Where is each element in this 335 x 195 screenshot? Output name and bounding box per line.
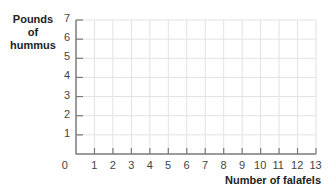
y-tick-label: 2 (64, 108, 70, 120)
x-tick-label: 5 (165, 159, 171, 171)
x-tick-label: 9 (239, 159, 245, 171)
x-tick-label: 6 (184, 159, 190, 171)
x-tick-label: 1 (91, 159, 97, 171)
x-tick-label: 3 (128, 159, 134, 171)
x-tick-label: 2 (110, 159, 116, 171)
x-tick-label: 11 (273, 159, 284, 171)
y-tick-label: 6 (64, 31, 70, 43)
y-axis-title: Pounds of hummus (2, 13, 64, 52)
x-tick-label: 0 (62, 159, 68, 171)
x-tick-label: 8 (220, 159, 226, 171)
y-tick-label: 1 (64, 127, 70, 139)
x-axis-title: Number of falafels (225, 174, 321, 186)
x-tick-label: 12 (291, 159, 303, 171)
y-axis-title-line-1: Pounds (2, 13, 64, 26)
y-axis-title-line-3: hummus (2, 39, 64, 52)
y-tick-label: 3 (64, 89, 70, 101)
x-tick-label: 4 (147, 159, 153, 171)
y-axis-title-line-2: of (2, 26, 64, 39)
x-tick-label: 7 (202, 159, 208, 171)
x-tick-label: 13 (310, 159, 322, 171)
y-tick-label: 7 (64, 12, 70, 24)
x-tick-label: 10 (254, 159, 266, 171)
y-tick-label: 5 (64, 50, 70, 62)
y-tick-label: 4 (64, 69, 70, 81)
